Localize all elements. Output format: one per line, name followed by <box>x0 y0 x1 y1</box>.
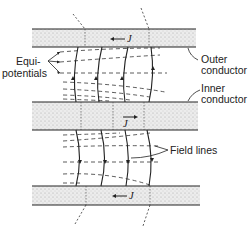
current-label-top: J <box>127 33 132 45</box>
field-lines-lower <box>76 130 151 186</box>
outer-conductor-label-2: conductor <box>201 64 247 76</box>
inner-conductor-label-2: conductor <box>201 93 247 105</box>
inner-conductor <box>32 102 198 130</box>
current-label-middle: J <box>123 118 128 130</box>
outer-conductor-pointer <box>188 48 198 60</box>
equipotentials-label-1: Equi- <box>16 55 41 67</box>
field-lines-pointer <box>131 146 168 158</box>
current-label-bottom: J <box>129 190 134 202</box>
field-arrows-lower <box>78 158 154 164</box>
equipotentials-label-2: potentials <box>2 67 47 79</box>
inner-conductor-pointer <box>188 90 200 101</box>
field-lines-upper <box>74 47 152 102</box>
field-lines-label: Field lines <box>170 144 217 156</box>
coax-diagram <box>0 0 250 229</box>
